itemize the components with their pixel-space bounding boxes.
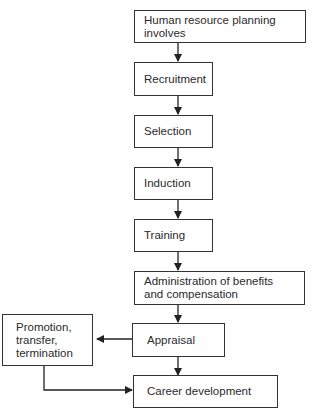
node-label: Career development <box>147 385 251 398</box>
node-hrp: Human resource planning involves <box>134 10 306 43</box>
node-induction: Induction <box>134 167 213 200</box>
node-label: Selection <box>144 125 191 138</box>
node-label: Human resource planning involves <box>144 14 284 40</box>
node-label: Recruitment <box>144 73 206 86</box>
node-appraisal: Appraisal <box>132 323 225 357</box>
node-selection: Selection <box>134 115 213 148</box>
node-training: Training <box>134 219 213 252</box>
node-promotion: Promotion, transfer, termination <box>2 314 93 366</box>
node-recruitment: Recruitment <box>134 62 213 96</box>
node-label: Promotion, transfer, termination <box>16 321 86 360</box>
node-label: Induction <box>144 177 191 190</box>
node-label: Administration of benefits and compensat… <box>144 275 294 301</box>
node-career: Career development <box>133 375 278 408</box>
node-label: Appraisal <box>147 334 195 347</box>
node-admin: Administration of benefits and compensat… <box>134 271 305 305</box>
node-label: Training <box>144 229 185 242</box>
